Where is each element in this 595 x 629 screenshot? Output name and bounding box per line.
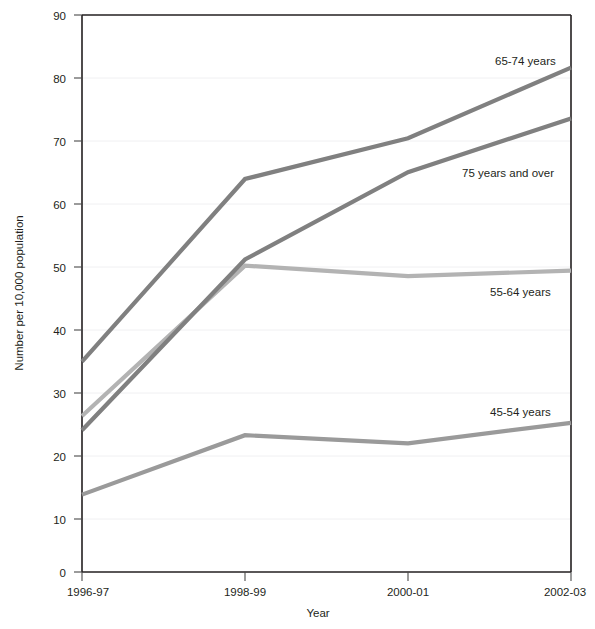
series-label-65-74: 65-74 years: [495, 55, 556, 67]
x-tick-label: 2000-01: [387, 586, 429, 598]
y-tick-label: 40: [53, 325, 66, 337]
series-label-55-64: 55-64 years: [490, 286, 551, 298]
y-tick-label: 50: [53, 262, 66, 274]
y-tick-label: 30: [53, 388, 66, 400]
x-tick-label: 1996-97: [67, 586, 109, 598]
y-tick-label: 60: [53, 199, 66, 211]
y-axis-ticks: [74, 15, 82, 572]
series-line-45-54: [82, 423, 571, 495]
chart-canvas: 90 80 70 60 50 40 30 20 10 0 1996-97 199…: [0, 0, 595, 629]
y-tick-label: 20: [53, 451, 66, 463]
line-chart: 90 80 70 60 50 40 30 20 10 0 1996-97 199…: [0, 0, 595, 629]
y-tick-label: 0: [60, 567, 66, 579]
x-axis-ticks: [82, 572, 571, 581]
y-tick-label: 10: [53, 514, 66, 526]
x-tick-label: 1998-99: [224, 586, 266, 598]
x-axis-labels: 1996-97 1998-99 2000-01 2002-03: [67, 586, 586, 598]
y-tick-label: 90: [53, 10, 66, 22]
y-tick-label: 70: [53, 136, 66, 148]
y-axis-labels: 90 80 70 60 50 40 30 20 10 0: [53, 10, 66, 579]
x-tick-label: 2002-03: [544, 586, 586, 598]
y-tick-label: 80: [53, 73, 66, 85]
x-axis-title: Year: [306, 607, 329, 619]
series-label-75-and-over: 75 years and over: [462, 167, 554, 179]
y-axis-title: Number per 10,000 population: [13, 215, 25, 370]
series-label-45-54: 45-54 years: [490, 406, 551, 418]
